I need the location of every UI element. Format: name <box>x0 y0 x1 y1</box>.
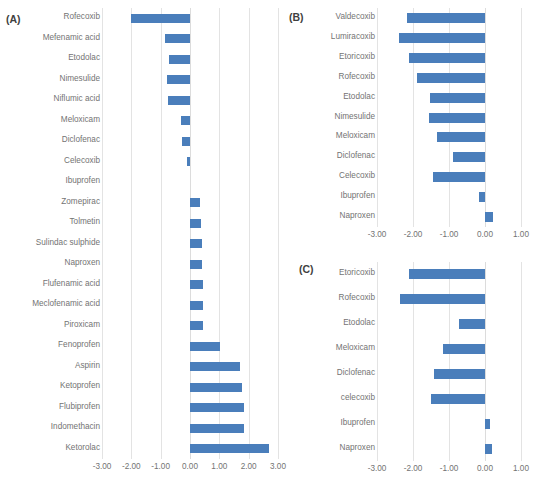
bar-a-17 <box>190 362 240 371</box>
bar-a-2 <box>169 55 190 64</box>
bar-c-2 <box>459 319 485 329</box>
gridline-b-4 <box>521 8 522 227</box>
bar-c-3 <box>443 344 485 354</box>
category-label-a-8: Ibuprofen <box>4 177 100 185</box>
category-label-a-18: Ketoprofen <box>4 382 100 390</box>
bar-b-1 <box>399 33 485 43</box>
bar-a-13 <box>190 280 203 289</box>
bar-c-0 <box>409 269 485 279</box>
category-label-c-4: Diclofenac <box>289 369 375 377</box>
x-tick-label-c-0: -3.00 <box>361 465 393 473</box>
category-label-a-1: Mefenamic acid <box>4 34 100 42</box>
category-label-a-3: Nimesulide <box>4 75 100 83</box>
x-tick-label-b-4: 1.00 <box>505 231 534 239</box>
gridline-c-4 <box>521 262 522 461</box>
bar-c-1 <box>400 294 485 304</box>
x-tick-label-a-2: -1.00 <box>145 463 177 471</box>
panel-a-rows: RofecoxibMefenamic acidEtodolacNimesulid… <box>0 0 285 486</box>
category-label-b-9: Ibuprofen <box>289 192 375 200</box>
category-label-b-4: Etodolac <box>289 93 375 101</box>
bar-a-5 <box>181 116 190 125</box>
bar-b-4 <box>430 93 485 103</box>
bar-a-15 <box>190 321 203 330</box>
category-label-a-13: Flufenamic acid <box>4 280 100 288</box>
x-tick-label-a-0: -3.00 <box>86 463 118 471</box>
category-label-a-11: Sulindac sulphide <box>4 239 100 247</box>
bar-b-5 <box>429 113 485 123</box>
bar-a-19 <box>190 403 244 412</box>
category-label-c-6: Ibuprofen <box>289 419 375 427</box>
category-label-c-7: Naproxen <box>289 444 375 452</box>
bar-b-6 <box>437 132 485 142</box>
category-label-a-4: Niflumic acid <box>4 95 100 103</box>
x-tick-label-c-4: 1.00 <box>505 465 534 473</box>
category-label-a-12: Naproxen <box>4 259 100 267</box>
category-label-b-10: Naproxen <box>289 212 375 220</box>
panel-c-rows: EtoricoxibRofecoxibEtodolacMeloxicamDicl… <box>285 250 521 486</box>
bar-a-10 <box>190 219 201 228</box>
x-tick-label-b-2: -1.00 <box>433 231 465 239</box>
x-tick-label-c-2: -1.00 <box>433 465 465 473</box>
panel-c: (C) EtoricoxibRofecoxibEtodolacMeloxicam… <box>285 250 521 486</box>
category-label-a-5: Meloxicam <box>4 116 100 124</box>
x-tick-label-a-3: 0.00 <box>174 463 206 471</box>
bar-a-6 <box>182 137 190 146</box>
category-label-a-0: Rofecoxib <box>4 13 100 21</box>
category-label-b-1: Lumiracoxib <box>289 33 375 41</box>
x-tick-label-a-4: 1.00 <box>203 463 235 471</box>
x-tick-label-b-1: -2.00 <box>397 231 429 239</box>
bar-a-7 <box>187 157 190 166</box>
bar-c-7 <box>485 444 492 454</box>
category-label-a-20: Indomethacin <box>4 423 100 431</box>
x-tick-label-a-5: 2.00 <box>233 463 265 471</box>
bar-b-0 <box>407 13 485 23</box>
bar-c-5 <box>431 394 485 404</box>
category-label-a-17: Aspirin <box>4 362 100 370</box>
category-label-b-0: Valdecoxib <box>289 13 375 21</box>
bar-b-7 <box>453 152 485 162</box>
x-tick-label-b-3: 0.00 <box>469 231 501 239</box>
category-label-a-16: Fenoprofen <box>4 341 100 349</box>
bar-a-20 <box>190 424 244 433</box>
category-label-c-5: celecoxib <box>289 394 375 402</box>
category-label-b-3: Rofecoxib <box>289 73 375 81</box>
category-label-a-19: Flubiprofen <box>4 403 100 411</box>
bar-a-3 <box>167 75 190 84</box>
x-tick-label-b-0: -3.00 <box>361 231 393 239</box>
bar-a-18 <box>190 383 242 392</box>
bar-b-3 <box>417 73 485 83</box>
bar-a-12 <box>190 260 202 269</box>
category-label-b-8: Celecoxib <box>289 172 375 180</box>
category-label-a-15: Piroxicam <box>4 321 100 329</box>
category-label-b-7: Diclofenac <box>289 152 375 160</box>
bar-a-4 <box>168 96 190 105</box>
bar-a-16 <box>190 342 220 351</box>
panel-a: (A) RofecoxibMefenamic acidEtodolacNimes… <box>0 0 285 486</box>
category-label-c-0: Etoricoxib <box>289 269 375 277</box>
bar-a-9 <box>190 198 200 207</box>
bar-c-4 <box>434 369 485 379</box>
category-label-a-10: Tolmetin <box>4 218 100 226</box>
category-label-a-7: Celecoxib <box>4 157 100 165</box>
x-tick-label-c-3: 0.00 <box>469 465 501 473</box>
bar-a-1 <box>165 34 190 43</box>
bar-c-6 <box>485 419 490 429</box>
bar-b-2 <box>409 53 485 63</box>
bar-a-0 <box>131 14 190 23</box>
category-label-a-14: Meclofenamic acid <box>4 300 100 308</box>
category-label-c-1: Rofecoxib <box>289 294 375 302</box>
panel-b: (B) ValdecoxibLumiracoxibEtoricoxibRofec… <box>285 0 521 250</box>
category-label-a-6: Diclofenac <box>4 136 100 144</box>
bar-b-8 <box>433 172 485 182</box>
x-tick-label-c-1: -2.00 <box>397 465 429 473</box>
x-tick-label-a-1: -2.00 <box>115 463 147 471</box>
bar-b-9 <box>479 192 485 202</box>
category-label-b-2: Etoricoxib <box>289 53 375 61</box>
category-label-c-3: Meloxicam <box>289 344 375 352</box>
category-label-b-5: Nimesulide <box>289 113 375 121</box>
category-label-a-2: Etodolac <box>4 54 100 62</box>
bar-a-11 <box>190 239 202 248</box>
bar-a-14 <box>190 301 203 310</box>
panel-b-rows: ValdecoxibLumiracoxibEtoricoxibRofecoxib… <box>285 0 521 250</box>
